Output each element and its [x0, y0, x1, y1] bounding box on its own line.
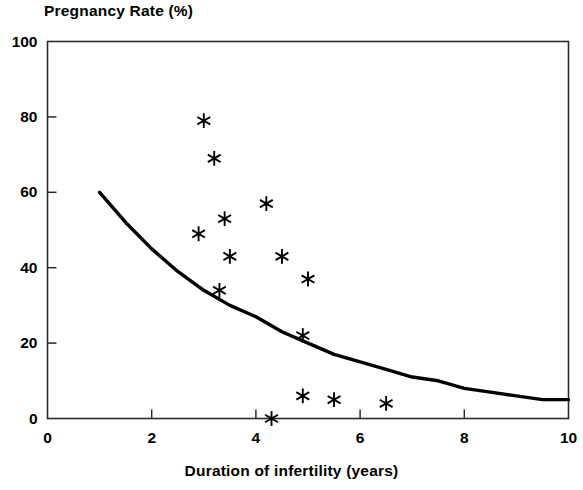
- fitted-curve: [100, 192, 569, 399]
- pregnancy-rate-chart: Pregnancy Rate (%) 020406080100 0246810 …: [0, 0, 583, 490]
- y-axis-ticks: [48, 117, 57, 343]
- data-point-marker: [197, 113, 210, 128]
- data-point-marker: [223, 249, 236, 264]
- x-tick-label: 2: [147, 430, 156, 446]
- data-point-marker: [192, 226, 205, 241]
- data-point-marker: [296, 388, 309, 403]
- x-tick-label: 6: [356, 430, 365, 446]
- data-point-marker: [208, 151, 221, 166]
- data-point-marker: [276, 249, 289, 264]
- y-tick-label: 100: [0, 34, 38, 50]
- y-tick-label: 60: [0, 185, 38, 201]
- axis-frame: [48, 42, 569, 419]
- data-point-marker: [302, 272, 315, 287]
- data-point-marker: [380, 396, 393, 411]
- y-tick-label: 0: [0, 411, 38, 427]
- x-tick-label: 4: [252, 430, 261, 446]
- y-tick-label: 20: [0, 335, 38, 351]
- plot-canvas: [0, 0, 583, 490]
- data-point-markers: [192, 113, 392, 426]
- data-point-marker: [260, 196, 273, 211]
- data-point-marker: [218, 211, 231, 226]
- fitted-curve-path: [100, 192, 569, 399]
- x-tick-label: 10: [560, 430, 577, 446]
- x-tick-label: 8: [460, 430, 469, 446]
- y-tick-label: 80: [0, 109, 38, 125]
- x-axis-title: Duration of infertility (years): [0, 462, 583, 480]
- data-point-marker: [328, 392, 341, 407]
- x-tick-label: 0: [43, 430, 52, 446]
- y-tick-label: 40: [0, 260, 38, 276]
- x-axis-ticks: [152, 410, 465, 419]
